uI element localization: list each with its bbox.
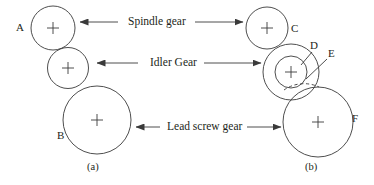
- callout-idler-gear: Idler Gear: [150, 57, 197, 69]
- lead-screw-gear-b-center-cross: [312, 116, 324, 128]
- panel-b-gear-train: [246, 7, 353, 157]
- idler-gear-a-center-cross: [62, 62, 74, 74]
- gear-label-c: C: [291, 23, 298, 34]
- leader-line-e: [306, 59, 327, 79]
- gear-label-a: A: [16, 22, 24, 33]
- gear-label-d: D: [310, 40, 318, 51]
- callout-arrow-group: [80, 22, 281, 127]
- lead-screw-gear-a-center-cross: [91, 114, 103, 126]
- gear-label-e: E: [328, 48, 335, 59]
- gear-label-f: F: [352, 113, 358, 124]
- panel-a-gear-train: [31, 6, 131, 154]
- gear-label-b: B: [57, 130, 64, 141]
- callout-lead-screw-gear: Lead screw gear: [167, 121, 242, 133]
- subcaption-a: (a): [87, 162, 99, 173]
- idler-gear-b-center-cross: [285, 66, 297, 78]
- spindle-gear-b-center-cross: [261, 22, 273, 34]
- subcaption-b: (b): [305, 162, 317, 173]
- spindle-gear-a-center-cross: [47, 22, 59, 34]
- leader-line-d: [301, 52, 312, 65]
- callout-spindle-gear: Spindle gear: [128, 16, 186, 28]
- gear-train-figure: [0, 0, 374, 185]
